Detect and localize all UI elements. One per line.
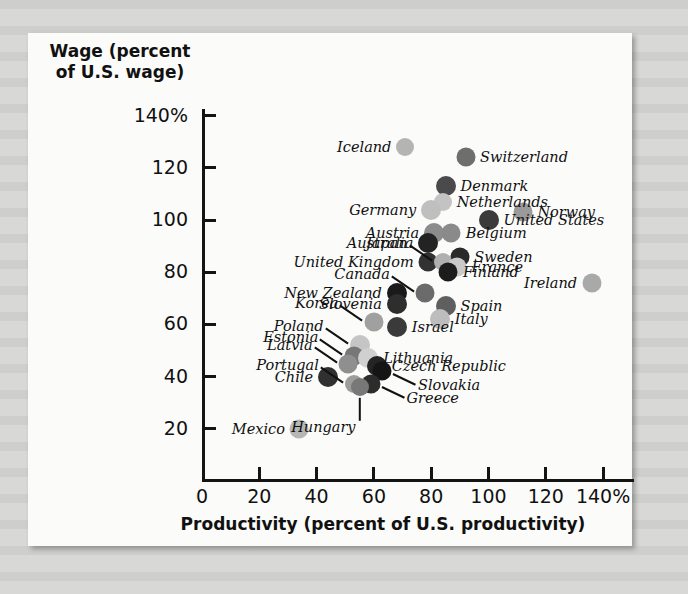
y-axis-line: [202, 109, 205, 481]
x-tick-label-140%: 140%: [568, 485, 638, 507]
data-point-latvia[interactable]: [339, 354, 358, 373]
data-point-hungary[interactable]: [351, 378, 369, 396]
scatter-plot-area: Wage (percentof U.S. wage) 2040608010012…: [28, 33, 632, 546]
point-label-hungary: Hungary: [291, 420, 355, 435]
leader-line-greece: [381, 386, 405, 398]
point-label-ireland: Ireland: [524, 275, 577, 290]
y-tick-label-40: 40: [28, 365, 196, 387]
data-point-israel[interactable]: [387, 317, 407, 337]
data-point-iceland[interactable]: [396, 138, 414, 156]
point-label-switzerland: Switzerland: [480, 150, 568, 165]
point-label-czech-republic: Czech Republic: [392, 359, 506, 374]
point-label-denmark: Denmark: [461, 179, 529, 194]
point-label-japan: Japan: [366, 236, 408, 251]
data-point-canada[interactable]: [416, 284, 435, 303]
point-label-israel: Israel: [412, 320, 454, 335]
point-label-italy: Italy: [455, 312, 488, 327]
leader-line-slovakia: [393, 373, 417, 385]
point-label-netherlands: Netherlands: [457, 194, 548, 209]
point-label-germany: Germany: [349, 202, 416, 217]
data-point-korea[interactable]: [364, 312, 383, 331]
x-tick-80: [430, 467, 433, 479]
y-tick-140%: [205, 114, 216, 117]
data-point-switzerland[interactable]: [456, 148, 475, 167]
leader-line-poland: [325, 328, 348, 344]
data-point-slovenia[interactable]: [387, 294, 407, 314]
point-label-mexico: Mexico: [232, 422, 285, 437]
y-tick-label-140%: 140%: [28, 104, 196, 126]
y-tick-60: [205, 323, 216, 326]
point-label-iceland: Iceland: [337, 140, 391, 155]
y-tick-label-60: 60: [28, 312, 196, 334]
point-label-latvia: Latvia: [267, 337, 313, 352]
point-label-portugal: Portugal: [256, 358, 319, 373]
y-tick-label-100: 100: [28, 208, 196, 230]
x-axis-title: Productivity (percent of U.S. productivi…: [148, 514, 618, 534]
point-label-canada: Canada: [334, 267, 390, 282]
y-axis-title: Wage (percentof U.S. wage): [36, 41, 204, 84]
point-label-greece: Greece: [407, 391, 459, 406]
data-point-ireland[interactable]: [582, 273, 601, 292]
x-axis-line: [202, 479, 634, 482]
x-tick-20: [258, 467, 261, 479]
y-tick-label-80: 80: [28, 260, 196, 282]
x-tick-120: [544, 467, 547, 479]
y-tick-label-20: 20: [28, 417, 196, 439]
y-tick-100: [205, 219, 216, 222]
chart-panel: Wage (percentof U.S. wage) 2040608010012…: [28, 33, 632, 546]
x-tick-40: [315, 467, 318, 479]
data-point-finland[interactable]: [439, 263, 458, 282]
data-point-germany[interactable]: [421, 200, 441, 220]
y-tick-20: [205, 427, 216, 430]
y-tick-label-120: 120: [28, 156, 196, 178]
point-label-finland: Finland: [463, 265, 519, 280]
y-tick-40: [205, 375, 216, 378]
y-tick-80: [205, 271, 216, 274]
x-tick-140%: [602, 467, 605, 479]
y-tick-120: [205, 166, 216, 169]
x-tick-60: [372, 467, 375, 479]
point-label-korea: Korea: [295, 296, 338, 311]
x-tick-100: [487, 467, 490, 479]
leader-line-hungary: [359, 398, 361, 421]
data-point-australia[interactable]: [418, 233, 438, 253]
point-label-belgium: Belgium: [466, 226, 527, 241]
data-point-belgium[interactable]: [442, 224, 461, 243]
